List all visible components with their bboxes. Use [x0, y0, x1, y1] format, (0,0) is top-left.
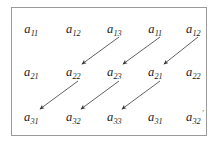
matrix-cell-r3c4: a31: [148, 111, 162, 124]
matrix-cell-base: a: [24, 65, 30, 79]
matrix-grid: a11 a12 a13 a11 a12 a21 a22 a23 a21 a22: [0, 0, 221, 145]
matrix-cell-subscript: 32: [73, 116, 81, 125]
matrix-cell-subscript: 32: [193, 116, 201, 125]
matrix-cell-base: a: [66, 65, 72, 79]
corner-comma-mark: ,: [202, 103, 204, 113]
matrix-cell-subscript: 12: [73, 28, 81, 37]
matrix-cell-base: a: [24, 22, 30, 36]
matrix-cell-subscript: 22: [193, 71, 201, 80]
matrix-cell-subscript: 11: [155, 28, 162, 37]
matrix-cell-r1c1: a11: [24, 23, 37, 36]
matrix-cell-subscript: 12: [193, 28, 201, 37]
matrix-cell-subscript: 11: [31, 28, 38, 37]
matrix-cell-base: a: [24, 110, 30, 124]
matrix-cell-subscript: 21: [155, 71, 163, 80]
matrix-cell-subscript: 23: [114, 71, 122, 80]
matrix-cell-base: a: [107, 110, 113, 124]
matrix-cell-r1c3: a13: [107, 23, 121, 36]
matrix-cell-r1c5: a12: [186, 23, 200, 36]
matrix-cell-base: a: [66, 110, 72, 124]
matrix-cell-r2c1: a21: [24, 66, 38, 79]
matrix-cell-r2c3: a23: [107, 66, 121, 79]
matrix-cell-base: a: [186, 65, 192, 79]
matrix-cell-subscript: 31: [155, 116, 163, 125]
matrix-cell-subscript: 21: [31, 71, 39, 80]
matrix-cell-r2c4: a21: [148, 66, 162, 79]
matrix-cell-subscript: 33: [114, 116, 122, 125]
matrix-cell-base: a: [148, 22, 154, 36]
matrix-cell-subscript: 13: [114, 28, 122, 37]
matrix-cell-r2c2: a22: [66, 66, 80, 79]
matrix-cell-r3c5: a32: [186, 111, 200, 124]
matrix-cell-r3c3: a33: [107, 111, 121, 124]
matrix-cell-base: a: [148, 65, 154, 79]
matrix-cell-base: a: [186, 110, 192, 124]
matrix-cell-base: a: [66, 22, 72, 36]
matrix-cell-base: a: [107, 22, 113, 36]
matrix-cell-base: a: [107, 65, 113, 79]
matrix-cell-r3c1: a31: [24, 111, 38, 124]
matrix-cell-base: a: [148, 110, 154, 124]
matrix-cell-r1c4: a11: [148, 23, 161, 36]
matrix-cell-subscript: 22: [73, 71, 81, 80]
matrix-cell-subscript: 31: [31, 116, 39, 125]
matrix-cell-base: a: [186, 22, 192, 36]
matrix-arrow-figure: a11 a12 a13 a11 a12 a21 a22 a23 a21 a22: [0, 0, 221, 145]
matrix-cell-r3c2: a32: [66, 111, 80, 124]
matrix-cell-r1c2: a12: [66, 23, 80, 36]
matrix-cell-r2c5: a22: [186, 66, 200, 79]
